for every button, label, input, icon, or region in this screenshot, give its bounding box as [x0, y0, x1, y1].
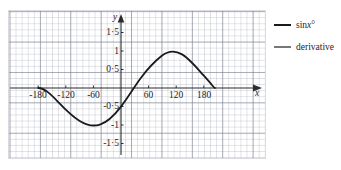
legend-label-sin: sinx° [296, 20, 315, 30]
y-tick-label: 0·5 [90, 64, 119, 74]
legend-swatch-derivative [274, 46, 291, 48]
y-tick-label: -0·5 [90, 101, 119, 111]
legend-item-derivative[interactable]: derivative [274, 36, 341, 58]
curve-sin-x [38, 52, 215, 126]
legend-label-derivative: derivative [296, 42, 334, 52]
y-axis-label: y [113, 12, 117, 22]
x-axis-label: x [255, 88, 259, 98]
y-tick-label: 1 [90, 46, 119, 56]
legend: sinx° derivative [274, 14, 341, 58]
x-tick-label: -60 [76, 90, 111, 100]
legend-swatch-sin [274, 24, 291, 26]
legend-label-sin-suffix: ° [311, 20, 315, 30]
sine-graph-figure: -180 -120 -60 60 120 180 1·5 1 0·5 -0·5 … [0, 0, 341, 170]
x-tick-label: 180 [190, 90, 218, 100]
y-tick-label: -1 [90, 120, 119, 130]
x-tick-label: 120 [162, 90, 190, 100]
y-tick-label: 1·5 [90, 27, 119, 37]
y-tick-label: -1·5 [90, 138, 119, 148]
y-axis-arrow [118, 14, 125, 23]
legend-label-sin-prefix: sin [296, 20, 307, 30]
legend-item-sin[interactable]: sinx° [274, 14, 341, 36]
x-tick-label: 60 [136, 90, 161, 100]
